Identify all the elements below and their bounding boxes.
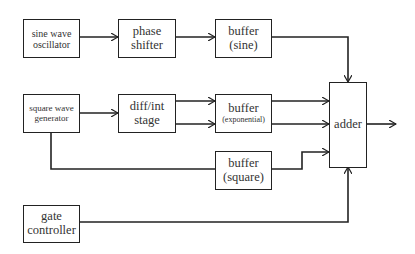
block-label: controller <box>27 224 76 238</box>
block-adder: adder <box>329 82 367 168</box>
block-label: diff/int <box>130 100 165 114</box>
block-gate-controller: gate controller <box>23 205 80 243</box>
wire-buffer-sine-to-adder <box>271 37 348 82</box>
block-label: (sine) <box>229 39 257 53</box>
block-buffer-square: buffer (square) <box>215 151 272 190</box>
block-label: buffer <box>228 102 258 116</box>
block-buffer-sine: buffer (sine) <box>215 19 272 58</box>
block-label: adder <box>334 118 362 132</box>
block-sine-wave-oscillator: sine wave oscillator <box>23 19 80 58</box>
block-label: stage <box>134 114 160 128</box>
block-label: sine wave <box>32 28 72 39</box>
block-phase-shifter: phase shifter <box>118 19 176 58</box>
wire-buffer-square-to-adder <box>271 152 329 169</box>
block-label: phase <box>133 25 161 39</box>
block-label: oscillator <box>33 39 70 50</box>
block-diff-int-stage: diff/int stage <box>118 94 176 133</box>
block-diagram: sine wave oscillator phase shifter buffe… <box>0 0 415 254</box>
block-label: buffer <box>228 25 258 39</box>
wire-square-to-buffer-square <box>51 132 215 169</box>
block-label: (exponential) <box>222 116 265 125</box>
block-square-wave-generator: square wave generator <box>23 94 80 133</box>
block-label: buffer <box>228 157 258 171</box>
block-label: shifter <box>131 39 163 53</box>
block-label: generator <box>35 114 69 124</box>
block-label: (square) <box>223 171 264 185</box>
wire-gate-to-adder <box>79 167 348 222</box>
block-buffer-exponential: buffer (exponential) <box>215 94 272 133</box>
block-label: gate <box>41 210 62 224</box>
